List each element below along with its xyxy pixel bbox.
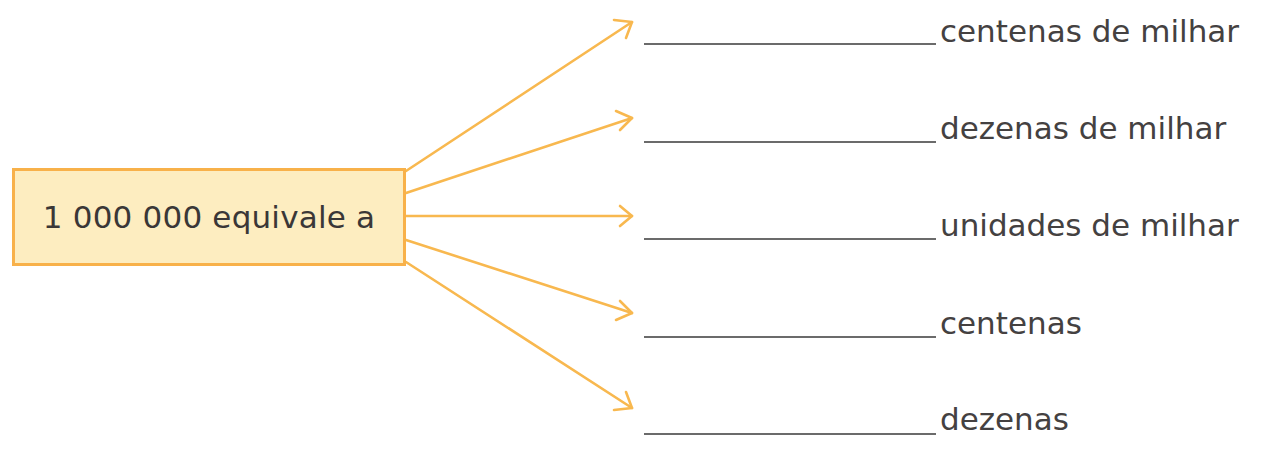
target-label-2: dezenas de milhar [940,113,1226,144]
arrow-5 [406,262,632,410]
answer-blank-2[interactable] [644,141,936,143]
arrow-1 [406,20,632,171]
target-label-1: centenas de milhar [940,16,1239,47]
source-box: 1 000 000 equivale a [12,168,406,266]
target-label-4: centenas [940,308,1082,339]
source-box-text: 1 000 000 equivale a [43,199,376,235]
target-label-5: dezenas [940,404,1069,435]
answer-blank-4[interactable] [644,336,936,338]
arrow-2 [406,111,632,193]
answer-blank-5[interactable] [644,433,936,435]
target-label-3: unidades de milhar [940,210,1239,241]
arrow-4 [406,240,632,320]
arrow-3 [406,206,632,226]
answer-blank-1[interactable] [644,43,936,45]
answer-blank-3[interactable] [644,238,936,240]
